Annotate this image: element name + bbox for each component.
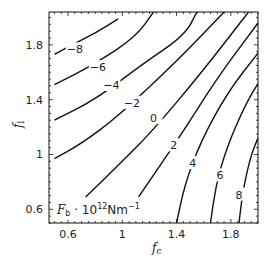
x-tick-label: 0.6 xyxy=(59,228,77,241)
contour-label: −4 xyxy=(103,79,119,92)
y-tick-label: 1 xyxy=(36,148,43,161)
x-axis-title: fc xyxy=(151,241,162,256)
y-tick-label: 1.8 xyxy=(26,39,44,52)
contour-chart: −8−6−4−202468 0.611.41.8 0.611.41.8 fc f… xyxy=(0,0,267,260)
x-tick-label: 1.8 xyxy=(222,228,240,241)
contour-line-2 xyxy=(139,23,258,197)
x-tick-label: 1 xyxy=(119,228,126,241)
y-axis-title: fl xyxy=(11,121,26,129)
contour-label: −6 xyxy=(90,61,106,74)
contour-line-8 xyxy=(239,138,258,223)
contour-labels: −8−6−4−202468 xyxy=(66,42,248,201)
y-tick-label: 1.4 xyxy=(26,94,44,107)
x-axis-tick-labels: 0.611.41.8 xyxy=(59,228,239,241)
y-axis-tick-labels: 0.611.41.8 xyxy=(26,39,44,216)
contour-label: −2 xyxy=(124,97,140,110)
contour-label: 2 xyxy=(170,139,177,152)
contour-line--8 xyxy=(54,19,118,55)
annotation-box: Fb · 1012Nm−1 xyxy=(54,200,146,220)
contour-label: −8 xyxy=(67,43,83,56)
contour-line--2 xyxy=(54,12,224,159)
contour-label: 6 xyxy=(217,169,224,182)
contour-label: 4 xyxy=(189,157,196,170)
contour-label: 8 xyxy=(236,189,243,202)
contour-line-6 xyxy=(211,83,259,223)
contour-label: 0 xyxy=(150,112,157,125)
y-tick-label: 0.6 xyxy=(26,203,44,216)
x-tick-label: 1.4 xyxy=(168,228,186,241)
